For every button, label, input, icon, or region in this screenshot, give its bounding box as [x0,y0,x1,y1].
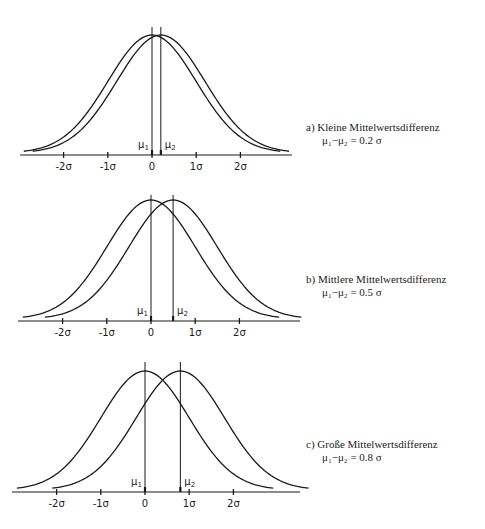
x-tick-label-0-2: 0 [149,161,155,172]
x-tick-label-0-0: -2σ [55,161,72,172]
caption-b: b) Mittlere Mittelwertsdifferenz μ₁−μ₂ =… [306,273,446,298]
caption-a: a) Kleine Mittelwertsdifferenz μ₁−μ₂ = 0… [306,121,440,146]
mean-label-0-μ1: μ1 [138,139,149,152]
x-tick-label-2-1: -1σ [93,498,110,509]
mean-label-1-μ2: μ2 [177,305,188,318]
mean-label-1-μ1: μ1 [137,305,148,318]
x-tick-label-2-3: 1σ [183,498,196,509]
caption-c-title: c) Große Mittelwertsdifferenz [306,438,438,450]
caption-a-formula: μ₁−μ₂ = 0.2 σ [306,134,440,146]
x-tick-label-2-2: 0 [142,498,148,509]
mean-label-0-μ2: μ2 [165,139,176,152]
x-tick-label-1-4: 2σ [233,327,246,338]
x-tick-label-0-1: -1σ [100,161,117,172]
x-tick-label-2-0: -2σ [48,498,65,509]
caption-a-title: a) Kleine Mittelwertsdifferenz [306,121,440,133]
caption-b-formula: μ₁−μ₂ = 0.5 σ [306,286,446,298]
mean-label-2-μ1: μ1 [131,476,142,489]
x-tick-label-0-4: 2σ [234,161,247,172]
x-tick-label-2-4: 2σ [227,498,240,509]
mean-label-2-μ2: μ2 [184,476,195,489]
x-tick-label-0-3: 1σ [190,161,203,172]
x-tick-label-1-2: 0 [148,327,154,338]
x-tick-label-1-0: -2σ [54,327,71,338]
caption-b-title: b) Mittlere Mittelwertsdifferenz [306,273,446,285]
x-tick-label-1-1: -1σ [99,327,116,338]
caption-c: c) Große Mittelwertsdifferenz μ₁−μ₂ = 0.… [306,438,438,463]
x-tick-label-1-3: 1σ [189,327,202,338]
caption-c-formula: μ₁−μ₂ = 0.8 σ [306,451,438,463]
